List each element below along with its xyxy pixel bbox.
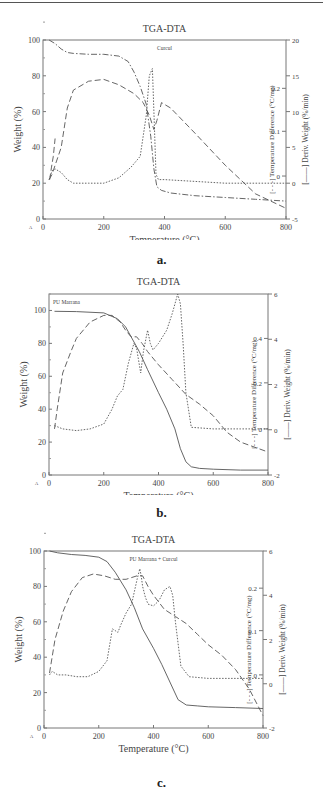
series-dta xyxy=(50,574,264,716)
y-tick-label: 0 xyxy=(42,471,46,480)
x-tick-label: 0 xyxy=(42,732,46,741)
y-tick-label: 80 xyxy=(32,72,40,81)
y2-tick-label: 0 xyxy=(277,173,281,181)
y3-tick-label: 15 xyxy=(292,73,300,81)
y2-tick-label: 0.2 xyxy=(248,585,257,593)
y3-tick-label: 2 xyxy=(269,637,273,645)
y3-tick-label: -2 xyxy=(274,472,280,480)
y3-tick-label: 0 xyxy=(274,427,278,435)
x-tick-label: 200 xyxy=(98,223,110,232)
caption-b: b. xyxy=(0,505,323,521)
x-tick-label: 400 xyxy=(159,223,171,232)
y-tick-label: 20 xyxy=(33,689,41,698)
chart-title: TGA-DTA xyxy=(143,23,187,34)
chart-b: TGA-DTAPU Marrana02004006008000204060801… xyxy=(0,275,323,499)
chart-c-plot: TGA-DTAPU Marrana + Curcul02004006008000… xyxy=(0,530,323,755)
y-tick-label: 100 xyxy=(28,36,40,45)
y2-axis-label: [- - -] Temperature Difference (°C/mg) xyxy=(245,595,253,704)
y-axis-label: Weight (%) xyxy=(12,106,24,152)
y-tick-label: 40 xyxy=(38,405,46,414)
sample-label: PU Marrana xyxy=(53,299,81,305)
y-tick-label: 20 xyxy=(32,179,40,188)
y-tick-label: 80 xyxy=(33,582,41,591)
y2-axis-label: [- - -] Temperature Difference (°C/mg) xyxy=(268,85,276,194)
y3-tick-label: 6 xyxy=(269,548,273,556)
y3-tick-label: 0 xyxy=(292,180,296,188)
y2-tick-label: 0 xyxy=(259,426,263,434)
y3-tick-label: 4 xyxy=(269,592,273,600)
series-deriv-weight-dtg- xyxy=(50,569,264,679)
x-tick-label: 200 xyxy=(98,479,110,488)
y-tick-label: 40 xyxy=(32,143,40,152)
y3-tick-label: 2 xyxy=(274,382,278,390)
series-weight-tga- xyxy=(49,40,286,201)
x-axis-label: Temperature (°C) xyxy=(123,490,193,495)
chart-a-plot: TGA-DTACurcul0200400600800020406080100-5… xyxy=(0,20,323,240)
caption-a: a. xyxy=(0,252,323,268)
x-tick-label: 600 xyxy=(207,479,219,488)
series-weight-tga- xyxy=(55,311,269,470)
y-tick-label: 60 xyxy=(38,372,46,381)
sample-label: PU Marrana + Curcul xyxy=(130,556,178,562)
plot-frame xyxy=(44,551,263,728)
x-axis-label: Temperature (°C) xyxy=(129,234,199,240)
y-tick-label: 100 xyxy=(34,306,46,315)
chart-a: TGA-DTACurcul0200400600800020406080100-5… xyxy=(0,20,323,244)
x-tick-label: 200 xyxy=(93,732,105,741)
series-deriv-weight-dtg- xyxy=(49,69,286,184)
y-tick-label: 60 xyxy=(33,618,41,627)
y3-axis-label: [——] Deriv. Weight (%/min) xyxy=(278,604,287,695)
x-axis-label: Temperature (°C) xyxy=(118,743,188,755)
x-tick-label: 600 xyxy=(202,732,214,741)
chart-title: TGA-DTA xyxy=(132,534,176,545)
chart-b-plot: TGA-DTAPU Marrana02004006008000204060801… xyxy=(0,275,323,495)
corner-mark: A xyxy=(35,481,39,486)
y3-tick-label: -5 xyxy=(292,216,298,224)
x-tick-label: 800 xyxy=(257,732,269,741)
x-tick-label: 600 xyxy=(219,223,231,232)
corner-mark: A xyxy=(29,225,33,230)
series-dta xyxy=(55,315,269,452)
series-early-spike xyxy=(50,139,55,180)
corner-mark: A xyxy=(30,734,34,739)
plot-frame xyxy=(49,294,268,475)
y2-axis-label: [- - -] Temperature Difference (°C/mg) xyxy=(250,340,258,449)
y3-tick-label: 4 xyxy=(274,336,278,344)
y3-tick-label: 10 xyxy=(292,109,300,117)
x-tick-label: 800 xyxy=(262,479,274,488)
page-top-rule xyxy=(0,2,323,3)
y3-axis-label: [——] Deriv. Weight (%/min) xyxy=(301,94,310,185)
y-tick-label: 40 xyxy=(33,653,41,662)
chart-c: TGA-DTAPU Marrana + Curcul02004006008000… xyxy=(0,530,323,759)
y3-tick-label: -2 xyxy=(269,725,275,733)
y3-tick-label: 5 xyxy=(292,144,296,152)
y-tick-label: 0 xyxy=(37,724,41,733)
y3-tick-label: 0 xyxy=(269,681,273,689)
y-tick-label: 0 xyxy=(36,215,40,224)
series-dta xyxy=(49,79,286,208)
y3-axis-label: [——] Deriv. Weight (%/min) xyxy=(283,349,292,440)
x-tick-label: 800 xyxy=(280,223,292,232)
series-deriv-weight-dtg- xyxy=(55,294,269,431)
sample-label: Curcul xyxy=(157,45,172,51)
y-tick-label: 20 xyxy=(38,438,46,447)
x-tick-label: 0 xyxy=(41,223,45,232)
y3-tick-label: 20 xyxy=(292,37,300,45)
y-tick-label: 60 xyxy=(32,108,40,117)
y-tick-label: 80 xyxy=(38,339,46,348)
series-weight-tga- xyxy=(50,551,264,709)
x-tick-label: 0 xyxy=(47,479,51,488)
x-tick-label: 400 xyxy=(148,732,160,741)
y3-tick-label: 6 xyxy=(274,291,278,299)
x-tick-label: 400 xyxy=(153,479,165,488)
y-tick-label: 100 xyxy=(29,547,41,556)
y-axis-label: Weight (%) xyxy=(18,361,30,407)
chart-title: TGA-DTA xyxy=(137,276,181,287)
y-axis-label: Weight (%) xyxy=(13,616,25,662)
plot-frame xyxy=(43,40,286,219)
caption-c: c. xyxy=(0,775,323,791)
